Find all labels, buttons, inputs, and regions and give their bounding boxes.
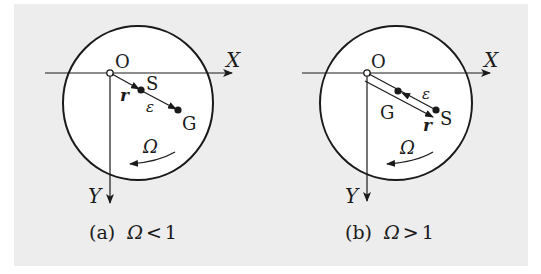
origin-point [364,70,370,76]
panel-b: O X Y S G r ε Ω (b)Ω>1 [302,26,499,243]
label-origin: O [115,51,130,72]
label-r: r [423,115,433,135]
point-g [174,106,181,113]
label-g: G [380,102,394,123]
label-g: G [182,113,196,134]
point-g [394,87,401,94]
label-r: r [120,85,130,105]
label-s: S [440,108,452,129]
label-s: S [146,73,158,94]
caption-b: (b)Ω>1 [345,221,434,243]
label-rotation-omega: Ω [142,136,158,157]
rotor-circle [320,26,472,180]
point-s [432,106,439,113]
label-y-axis: Y [345,184,360,208]
label-epsilon: ε [422,85,430,103]
figure: O X Y S G r ε Ω (a)Ω<1 O [0,0,541,274]
label-y-axis: Y [88,184,103,208]
caption-a: (a)Ω<1 [89,221,177,243]
origin-point [107,70,113,76]
label-epsilon: ε [146,98,154,116]
label-x-axis: X [224,48,241,72]
panel-a: O X Y S G r ε Ω (a)Ω<1 [45,26,241,243]
label-rotation-omega: Ω [399,137,415,158]
label-x-axis: X [482,48,499,72]
figure-canvas: O X Y S G r ε Ω (a)Ω<1 O [0,0,541,274]
label-origin: O [371,51,386,72]
rotor-circle [63,26,213,180]
point-s [137,86,144,93]
